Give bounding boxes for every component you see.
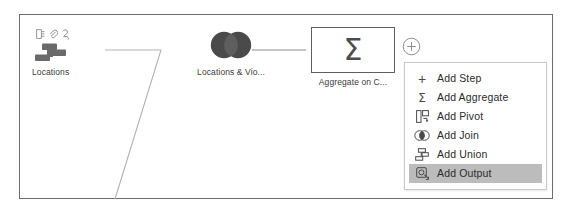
flow-node-locations-label: Locations — [29, 67, 107, 78]
flow-node-locations[interactable]: Locations — [29, 28, 107, 78]
menu-item-add-aggregate[interactable]: Σ Add Aggregate — [409, 88, 542, 107]
sigma-icon: Σ — [344, 35, 363, 65]
menu-item-add-step-label: Add Step — [437, 72, 481, 85]
locations-badges — [29, 28, 107, 40]
add-step-menu[interactable]: + Add Step Σ Add Aggregate Add Pivot — [404, 62, 547, 190]
menu-item-add-union-label: Add Union — [437, 148, 487, 161]
clean-step-icon — [62, 29, 71, 40]
document-icon — [36, 29, 45, 39]
aggregate-step-box[interactable]: Σ — [311, 27, 395, 73]
union-icon — [413, 147, 431, 163]
menu-item-add-union[interactable]: Add Union — [409, 145, 542, 164]
sigma-icon: Σ — [413, 90, 431, 106]
join-icon — [172, 28, 290, 62]
join-icon — [413, 128, 431, 144]
paperclip-icon — [49, 29, 58, 39]
input-step-icon — [29, 42, 107, 64]
flow-node-join[interactable]: Locations & Vio... — [172, 28, 290, 78]
menu-item-add-aggregate-label: Add Aggregate — [437, 91, 508, 104]
add-step-plus-button[interactable] — [402, 37, 421, 56]
flow-editor-screen: Locations Locations & Vio... Σ Aggregate… — [0, 0, 574, 217]
flow-node-join-label: Locations & Vio... — [172, 67, 290, 78]
menu-item-add-pivot-label: Add Pivot — [437, 110, 483, 123]
flow-node-aggregate-label: Aggregate on C... — [308, 77, 398, 88]
menu-item-add-output-label: Add Output — [437, 167, 492, 180]
menu-item-add-pivot[interactable]: Add Pivot — [409, 107, 542, 126]
menu-item-add-join-label: Add Join — [437, 129, 479, 142]
plus-icon: + — [413, 71, 431, 87]
menu-item-add-step[interactable]: + Add Step — [409, 69, 542, 88]
pivot-icon — [413, 109, 431, 125]
menu-item-add-output[interactable]: Add Output — [409, 164, 542, 183]
flow-node-aggregate[interactable]: Σ Aggregate on C... — [308, 27, 398, 88]
menu-item-add-join[interactable]: Add Join — [409, 126, 542, 145]
output-icon — [413, 166, 431, 182]
